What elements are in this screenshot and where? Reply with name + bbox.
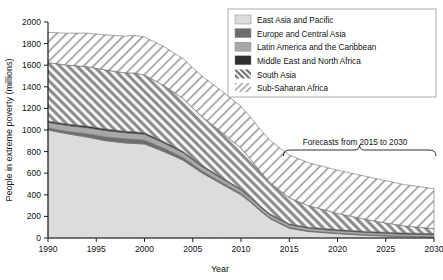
y-axis-title: People in extreme poverty (millions) (4, 58, 14, 201)
legend-swatch-4 (235, 69, 251, 78)
x-tick-label: 1995 (87, 244, 106, 254)
x-tick-label: 2010 (232, 244, 251, 254)
y-tick-label: 200 (27, 211, 41, 221)
legend-label-1: Europe and Central Asia (257, 30, 346, 39)
x-tick-label: 2025 (376, 244, 395, 254)
legend-label-4: South Asia (257, 71, 297, 80)
legend-label-5: Sub-Saharan Africa (257, 84, 328, 93)
y-tick-label: 400 (27, 190, 41, 200)
x-tick-label: 2030 (425, 244, 443, 254)
y-tick-label: 1000 (22, 125, 41, 135)
x-tick-label: 2000 (135, 244, 154, 254)
chart-legend: East Asia and PacificEurope and Central … (228, 9, 436, 97)
legend-swatch-2 (235, 42, 251, 51)
x-tick-label: 2020 (328, 244, 347, 254)
legend-label-3: Middle East and North Africa (257, 57, 361, 66)
y-tick-label: 1200 (22, 103, 41, 113)
legend-swatch-0 (235, 15, 251, 24)
forecast-annotation-label: Forecasts from 2015 to 2030 (303, 138, 408, 147)
legend-swatch-3 (235, 56, 251, 65)
y-tick-label: 1600 (22, 60, 41, 70)
legend-swatch-1 (235, 29, 251, 38)
legend-swatch-5 (235, 83, 251, 92)
y-tick-label: 1400 (22, 82, 41, 92)
legend-label-0: East Asia and Pacific (257, 16, 333, 25)
y-tick-label: 1800 (22, 39, 41, 49)
x-axis-title: Year (211, 264, 229, 274)
y-tick-label: 2000 (22, 17, 41, 27)
x-tick-label: 2015 (280, 244, 299, 254)
y-tick-label: 600 (27, 168, 41, 178)
y-tick-label: 800 (27, 147, 41, 157)
x-tick-label: 1990 (39, 244, 58, 254)
x-tick-label: 2005 (183, 244, 202, 254)
chart-canvas: 0200400600800100012001400160018002000 19… (0, 0, 443, 280)
poverty-stacked-area-chart: 0200400600800100012001400160018002000 19… (0, 0, 443, 280)
y-tick-label: 0 (36, 233, 41, 243)
legend-label-2: Latin America and the Caribbean (257, 43, 377, 52)
